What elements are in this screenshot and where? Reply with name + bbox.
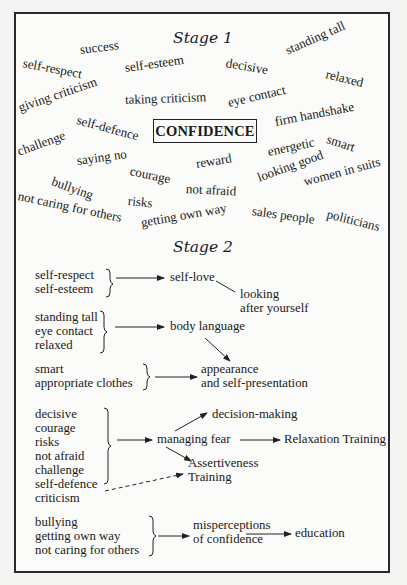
outcome-assertiveness-training: Assertiveness Training [188, 456, 258, 484]
group-misperceptions: bullying getting own way not caring for … [35, 515, 139, 557]
confidence-box: CONFIDENCE [153, 119, 257, 143]
group-item: standing tall [35, 310, 98, 324]
group-fear: decisive courage risks not afraid challe… [35, 407, 98, 505]
outcome-body-language: body language [170, 319, 245, 333]
stage2-title: Stage 2 [173, 238, 233, 256]
stage1-word: taking criticism [125, 89, 207, 108]
group-posture: standing tall eye contact relaxed [35, 310, 98, 352]
group-item: getting own way [35, 529, 139, 543]
group-item: self-defence [35, 477, 98, 491]
group-item: appropriate clothes [35, 376, 133, 390]
stage1-word: not afraid [186, 181, 237, 200]
group-item: eye contact [35, 324, 98, 338]
outcome-relaxation-training: Relaxation Training [284, 432, 386, 446]
outcome-decision-making: decision-making [212, 407, 297, 421]
group-item: self-esteem [35, 282, 94, 296]
group-item: risks [35, 435, 98, 449]
stage1-title: Stage 1 [173, 29, 233, 47]
group-item: courage [35, 421, 98, 435]
outcome-appearance: appearance and self-presentation [201, 362, 308, 390]
group-item: smart [35, 362, 133, 376]
group-self-regard: self-respect self-esteem [35, 268, 94, 296]
outcome-education: education [295, 526, 345, 540]
outcome-misperceptions: misperceptions of confidence [193, 518, 270, 546]
group-dress: smart appropriate clothes [35, 362, 133, 390]
group-item: decisive [35, 407, 98, 421]
outcome-managing-fear: managing fear [157, 432, 231, 446]
group-item: criticism [35, 491, 98, 505]
outcome-looking-after-yourself: looking after yourself [240, 287, 309, 315]
group-item: self-respect [35, 268, 94, 282]
group-item: relaxed [35, 338, 98, 352]
group-item: bullying [35, 515, 139, 529]
stage1-word: risks [127, 193, 153, 211]
group-item: not afraid [35, 449, 98, 463]
group-item: not caring for others [35, 543, 139, 557]
group-item: challenge [35, 463, 98, 477]
outcome-self-love: self-love [170, 270, 215, 284]
